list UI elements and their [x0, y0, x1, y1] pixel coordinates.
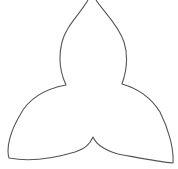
petal-outline: [8, 0, 173, 163]
trefoil-outline-drawing: [0, 0, 178, 169]
